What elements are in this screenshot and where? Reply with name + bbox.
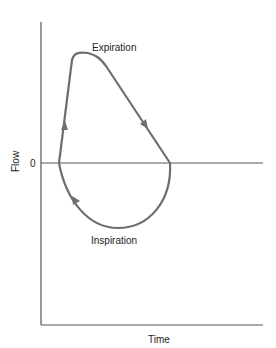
flow-time-diagram: Expiration Inspiration 0 Time Flow: [0, 0, 276, 348]
inspiration-curve: [59, 163, 170, 228]
expiration-label: Expiration: [92, 42, 136, 53]
inspiration-label: Inspiration: [91, 235, 137, 246]
y-axis-label: Flow: [10, 150, 21, 172]
arrow-up-icon: [61, 121, 68, 130]
expiration-curve: [59, 53, 170, 163]
x-axis-label: Time: [148, 334, 170, 345]
zero-tick-label: 0: [30, 158, 36, 169]
